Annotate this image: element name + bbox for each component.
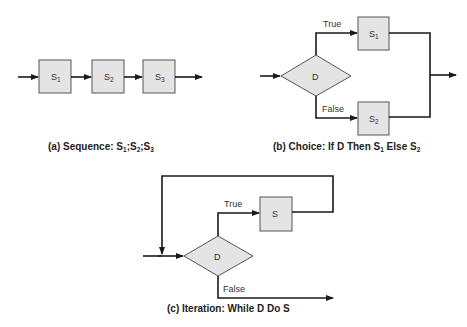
decision-label: D <box>214 252 221 262</box>
choice-caption: (b) Choice: If D Then S1 Else S2 <box>273 141 421 153</box>
decision-label: D <box>312 72 319 82</box>
iteration-caption: (c) Iteration: While D Do S <box>167 303 290 314</box>
true-branch-arrow <box>218 213 259 236</box>
sequence-diagram: S1 S2 S3 (a) Sequence: S1;S2;S3 <box>18 60 202 153</box>
control-structures-figure: S1 S2 S3 (a) Sequence: S1;S2;S3 D True S… <box>0 0 467 327</box>
false-label: False <box>322 104 344 114</box>
true-label: True <box>224 199 242 209</box>
false-label: False <box>223 284 245 294</box>
iteration-diagram: D True S False (c) Iteration: While D Do… <box>143 176 333 314</box>
merge-line <box>389 33 430 117</box>
body-statement-label: S <box>272 209 278 219</box>
loop-back-arrow <box>162 176 333 254</box>
sequence-caption: (a) Sequence: S1;S2;S3 <box>48 141 154 153</box>
true-label: True <box>323 19 341 29</box>
true-branch-arrow <box>316 33 357 55</box>
choice-diagram: D True S1 False S2 (b) Choice: If D Then… <box>260 17 456 153</box>
